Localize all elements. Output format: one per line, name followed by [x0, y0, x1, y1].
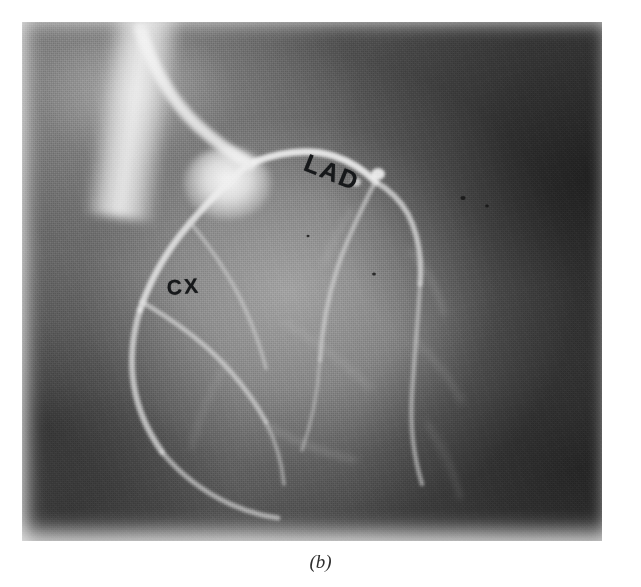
vessel-label-cx: CX [166, 275, 201, 298]
figure-caption: (b) [0, 551, 641, 573]
coronary-vessel-tree [22, 22, 602, 541]
figure-panel: LAD CX (b) [0, 0, 641, 587]
angiogram-image: LAD CX [22, 22, 602, 541]
